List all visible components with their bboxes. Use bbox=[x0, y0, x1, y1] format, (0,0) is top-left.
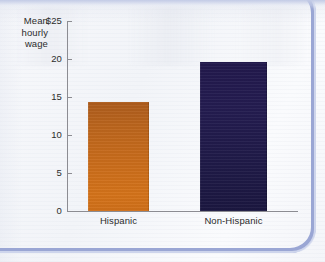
y-tick-label-5: 5 bbox=[28, 167, 62, 178]
x-tick-label-non-hispanic: Non-Hispanic bbox=[196, 215, 271, 226]
y-tick-mark-5 bbox=[67, 173, 72, 174]
y-axis-line bbox=[67, 21, 68, 212]
y-tick-mark-15 bbox=[67, 97, 72, 98]
y-tick-mark-10 bbox=[67, 135, 72, 136]
y-tick-label-10: 10 bbox=[28, 129, 62, 140]
y-tick-mark-20 bbox=[67, 59, 72, 60]
y-axis-title-line-2: hourly bbox=[0, 27, 48, 39]
y-tick-label-15: 15 bbox=[28, 91, 62, 102]
bar-hispanic bbox=[88, 102, 149, 211]
bar-non-hispanic bbox=[200, 62, 267, 211]
y-axis-title-line-3: wage bbox=[0, 38, 48, 50]
scanned-page: Mean hourly wage $25 20 15 10 5 0 Hispan… bbox=[0, 0, 325, 262]
x-axis-line bbox=[67, 211, 298, 212]
bar-chart: Mean hourly wage $25 20 15 10 5 0 Hispan… bbox=[0, 0, 325, 262]
y-tick-label-20: 20 bbox=[28, 53, 62, 64]
y-tick-label-0: 0 bbox=[28, 205, 62, 216]
x-tick-label-hispanic: Hispanic bbox=[88, 215, 149, 226]
y-tick-mark-25 bbox=[67, 21, 72, 22]
y-tick-label-25: $25 bbox=[28, 15, 62, 26]
y-tick-mark-0 bbox=[67, 211, 72, 212]
